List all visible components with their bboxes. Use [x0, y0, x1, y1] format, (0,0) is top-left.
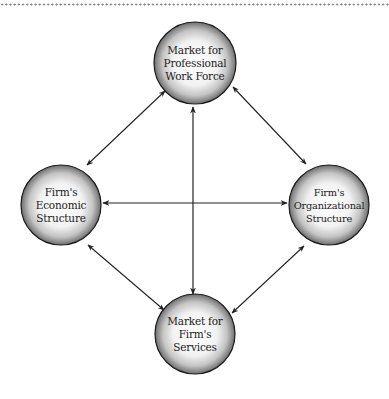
node-organizational-line-2: Organizational — [294, 199, 365, 212]
node-services-line-1: Market for — [167, 315, 222, 328]
node-organizational-line-1: Firm's — [314, 186, 344, 199]
node-economic-line-3: Structure — [36, 212, 86, 225]
node-organizational-line-3: Structure — [306, 212, 352, 225]
node-workforce-line-2: Professional — [164, 57, 227, 70]
node-services: Market for Firm's Services — [155, 294, 235, 374]
node-economic-line-1: Firm's — [45, 186, 78, 199]
node-services-line-2: Firm's — [179, 328, 212, 341]
node-workforce-line-1: Market for — [167, 44, 222, 57]
node-economic-line-2: Economic — [36, 199, 87, 212]
node-workforce: Market for Professional Work Force — [154, 22, 236, 104]
node-organizational: Firm's Organizational Structure — [289, 165, 369, 245]
arrow-organizational-services — [232, 246, 304, 313]
arrow-workforce-organizational — [233, 87, 306, 164]
node-services-line-3: Services — [173, 341, 217, 354]
arrow-economic-services — [88, 245, 164, 310]
node-workforce-line-3: Work Force — [165, 70, 224, 83]
node-economic: Firm's Economic Structure — [21, 165, 101, 245]
